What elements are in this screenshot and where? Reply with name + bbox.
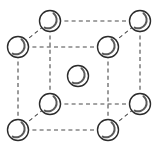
- atom-front-top-left: [8, 37, 29, 58]
- atom-back-top-left: [40, 11, 61, 32]
- atom-back-bottom-left: [40, 94, 61, 115]
- lattice-svg: [0, 0, 155, 156]
- atom-front-bottom-right: [98, 120, 119, 141]
- atom-back-bottom-right: [130, 94, 151, 115]
- bcc-unit-cell-figure: [0, 0, 155, 156]
- atom-body-center: [68, 66, 89, 87]
- atom-front-bottom-left: [8, 120, 29, 141]
- atom-front-top-right: [98, 37, 119, 58]
- atom-back-top-right: [130, 11, 151, 32]
